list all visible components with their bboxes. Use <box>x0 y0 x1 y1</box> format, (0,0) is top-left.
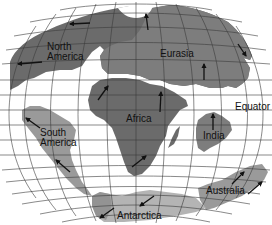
label-north-america: North America <box>47 42 84 62</box>
label-africa: Africa <box>126 114 152 124</box>
label-eurasia: Eurasia <box>160 49 194 59</box>
label-india: India <box>203 131 225 141</box>
label-america: America <box>47 52 84 62</box>
label-america-2: America <box>40 138 77 148</box>
label-equator: Equator <box>235 102 270 112</box>
label-australia: Australia <box>206 186 245 196</box>
madagascar-landmass <box>168 126 180 148</box>
label-antarctica: Antarctica <box>117 211 161 221</box>
south-america-landmass <box>22 106 92 196</box>
label-south-america: South America <box>40 128 77 148</box>
